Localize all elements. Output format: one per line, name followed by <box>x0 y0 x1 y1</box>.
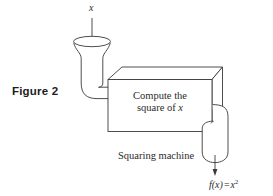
machine-box-text: Compute the square of x <box>122 90 198 114</box>
squaring-machine-figure: Figure 2 x Compute the square of x Squar… <box>0 0 273 196</box>
machine-box-text-line2-prefix: square of <box>137 102 178 113</box>
input-variable-label: x <box>89 2 93 14</box>
figure-caption: Figure 2 <box>12 85 58 98</box>
machine-name-label: Squaring machine <box>118 150 194 162</box>
input-funnel <box>74 36 111 46</box>
output-formula-function: f(x) <box>209 179 223 190</box>
input-pipe <box>74 43 111 99</box>
machine-box-text-line1: Compute the <box>122 90 198 102</box>
machine-box-text-line2-variable: x <box>178 102 183 113</box>
machine-box-text-line2: square of x <box>122 102 198 114</box>
output-formula-exponent: 2 <box>235 178 238 185</box>
output-formula-equals: = <box>223 179 231 190</box>
output-formula: f(x)=x2 <box>209 178 238 191</box>
